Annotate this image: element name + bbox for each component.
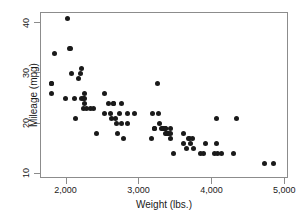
data-point xyxy=(78,71,83,76)
x-axis-tick xyxy=(284,178,285,184)
data-point xyxy=(214,116,219,121)
data-point xyxy=(184,146,189,151)
data-point xyxy=(149,136,154,141)
data-point xyxy=(231,151,236,156)
data-point xyxy=(72,96,77,101)
data-point xyxy=(234,116,239,121)
data-point xyxy=(49,81,54,86)
data-point xyxy=(73,116,78,121)
data-point xyxy=(150,111,155,116)
y-axis-tick-label-text: 10 xyxy=(21,168,30,178)
data-point xyxy=(65,16,70,21)
y-axis-tick xyxy=(34,173,40,174)
data-point xyxy=(168,136,173,141)
data-point xyxy=(168,131,173,136)
data-point xyxy=(156,111,161,116)
data-point xyxy=(68,46,73,51)
data-point xyxy=(271,161,276,166)
data-point xyxy=(52,51,57,56)
data-point xyxy=(125,121,130,126)
data-point xyxy=(214,141,219,146)
scatter-plot-figure: 10203040 2,0003,0004,0005,000 Mileage (m… xyxy=(0,0,298,216)
data-point xyxy=(115,131,120,136)
y-axis-tick-label: 10 xyxy=(0,173,34,174)
y-axis-title: Mileage (mpg) xyxy=(28,63,39,127)
data-point xyxy=(203,141,208,146)
x-axis-tick-label: 4,000 xyxy=(200,186,223,195)
data-point xyxy=(49,91,54,96)
data-point xyxy=(63,96,68,101)
data-point xyxy=(119,121,124,126)
data-point xyxy=(119,101,124,106)
data-point xyxy=(121,136,126,141)
data-point xyxy=(190,136,195,141)
data-point xyxy=(102,91,107,96)
x-axis-tick-label: 2,000 xyxy=(54,186,77,195)
data-point xyxy=(191,146,196,151)
x-axis-tick xyxy=(211,178,212,184)
data-point xyxy=(76,76,81,81)
data-point xyxy=(181,131,186,136)
data-point xyxy=(125,111,130,116)
y-axis-tick-label: 40 xyxy=(0,22,34,23)
x-axis-tick-label: 3,000 xyxy=(127,186,150,195)
y-axis-tick-label-text: 40 xyxy=(21,18,30,28)
data-point xyxy=(102,111,107,116)
y-axis-tick xyxy=(34,22,40,23)
data-point xyxy=(94,131,99,136)
data-point xyxy=(111,101,116,106)
data-point xyxy=(171,151,176,156)
data-point xyxy=(155,81,160,86)
data-point xyxy=(69,71,74,76)
data-point xyxy=(219,151,224,156)
plot-area xyxy=(40,12,288,178)
data-point xyxy=(132,111,137,116)
data-point xyxy=(117,111,122,116)
x-axis-tick xyxy=(66,178,67,184)
x-axis-title: Weight (lbs.) xyxy=(136,199,192,210)
data-point xyxy=(262,161,267,166)
data-point xyxy=(91,106,96,111)
data-point xyxy=(79,66,84,71)
data-point xyxy=(152,126,157,131)
x-axis-tick-label: 5,000 xyxy=(273,186,296,195)
data-point xyxy=(201,151,206,156)
x-axis-tick xyxy=(138,178,139,184)
